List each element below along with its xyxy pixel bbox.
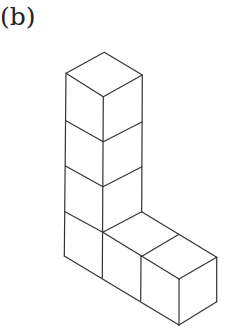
cube-base-row <box>64 212 216 325</box>
cube-column <box>64 52 142 277</box>
cube-diagram <box>0 0 239 333</box>
top-face <box>66 52 142 96</box>
